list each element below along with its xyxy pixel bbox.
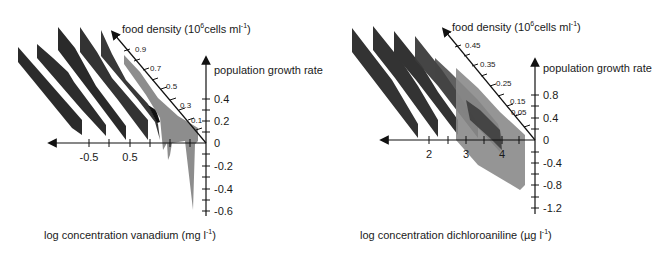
right-surfaces [352,26,525,190]
right-y-tick-label: 0.4 [543,112,558,124]
left-surfaces [18,27,198,210]
left-x-tick-label: -0.5 [80,151,99,163]
right-x-title-main: log concentration dichloroaniline (µg l [360,229,542,241]
left-z-tick-label: 0.9 [135,45,147,54]
right-z-title-main: food density (10 [452,21,530,33]
left-x-axis-title: log concentration vanadium (mg l-1) [44,228,216,241]
right-z-tick-label: 0.15 [510,97,526,106]
left-y-tick-label: -0.2 [214,160,233,172]
left-z-axis-title: food density (106cells ml-1) [122,22,251,35]
left-x-title-main: log concentration vanadium (mg l [44,229,206,241]
left-z-title-end: ) [247,23,251,35]
left-chart: -0.5 0.5 0.4 0.2 0 -0.2 -0.4 -0.6 popula… [18,27,323,217]
left-y-tick-label: 0 [214,137,220,149]
left-z-axis [114,34,206,143]
left-x-tick-label: 0.5 [122,151,137,163]
right-y-tick-label: -0.8 [543,179,562,191]
left-z-tick-label: 0.3 [180,101,192,110]
right-z-tick-label: 0.35 [480,60,496,69]
left-y-tick-label: 0.2 [214,115,229,127]
right-z-axis-title: food density (106cells ml-1) [452,20,581,33]
right-y-tick-label: -1.2 [543,202,562,214]
right-z-tick-label: 0.05 [511,108,527,117]
right-x-tick-label: 2 [426,148,432,160]
right-y-tick-label: 0.8 [543,89,558,101]
left-x-title-end: ) [212,229,216,241]
right-x-tick-label: 3 [463,148,469,160]
right-z-title-mid: cells ml [534,21,571,33]
left-z-tick-label: 0.5 [166,82,178,91]
left-slice-6 [124,55,198,210]
left-z-tick-label: 0.1 [191,116,203,125]
right-x-tick-label: 4 [499,148,505,160]
left-z-title-main: food density (10 [122,23,200,35]
left-y-tick-label: -0.6 [214,205,233,217]
right-x-axis-title: log concentration dichloroaniline (µg l-… [360,228,552,241]
left-z-tick-label: 0.7 [150,64,162,73]
left-z-title-mid: cells ml [204,23,241,35]
right-z-tick-label: 0.45 [465,41,481,50]
right-y-tick-label: -0.4 [543,157,562,169]
right-y-tick-label: 0 [543,134,549,146]
right-y-axis-title: population growth rate [543,62,652,74]
left-y-tick-label: 0.4 [214,93,229,105]
right-chart: 2 3 4 0.8 0.4 0 -0.4 -0.8 -1.2 populatio… [352,26,652,214]
right-x-title-end: ) [548,229,552,241]
left-y-axis-title: population growth rate [214,64,323,76]
right-z-title-end: ) [577,21,581,33]
figure-canvas: -0.5 0.5 0.4 0.2 0 -0.2 -0.4 -0.6 popula… [0,0,667,256]
left-y-tick-label: -0.4 [214,183,233,195]
right-z-tick-label: 0.25 [496,79,512,88]
